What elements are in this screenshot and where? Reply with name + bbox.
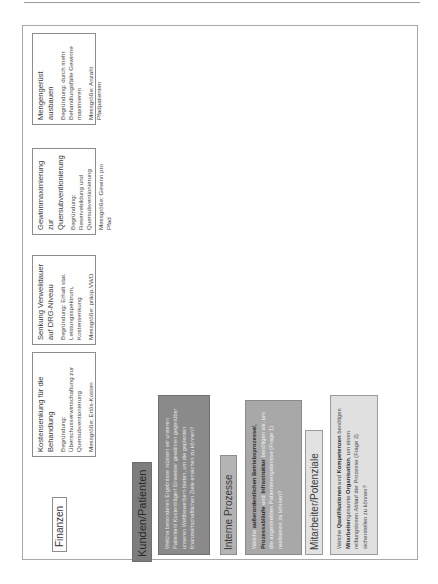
q-bold: Kompetenzen [336, 435, 342, 473]
card-title: Mengengerüst ausbauen [36, 38, 56, 120]
interne-question-box: Welche außerordentlichen Betriebsprozess… [245, 400, 302, 555]
mitarbeiter-question-box: Welche Qualifikationen und Kompetenzen b… [330, 395, 378, 555]
finanzen-label: Finanzen [52, 497, 67, 552]
q-text: und [260, 494, 266, 507]
kunden-label: Kunden/Patienten [132, 462, 152, 562]
finance-card-verweildauer: Senkung Verweildauer auf DRG-Niveau Begr… [32, 255, 96, 345]
finance-card-mengengeruest: Mengengerüst ausbauen Begründung: durch … [32, 33, 96, 125]
card-begruendung: Begründung: Überschusserwirtschaftung zu… [59, 357, 84, 452]
card-begruendung: Begründung: Erhalt stat. Leistungsspektr… [59, 260, 84, 340]
card-title: Gewinnmaximierung zur Quersubventionieru… [36, 153, 66, 230]
q-text: /gesamte [345, 494, 351, 519]
rotated-page: Finanzen Kostensenkung für die Behandlun… [0, 0, 438, 584]
card-messgroesse: Messgröße: präop.VWD [87, 260, 95, 340]
card-begruendung: Begründung: Reservebildung und Quersubve… [69, 153, 94, 230]
card-begruendung: Begründung: durch mehr Behandlungsfälle … [59, 38, 84, 120]
interne-prozesse-label: Interne Prozesse [220, 455, 237, 555]
card-title: Kostensenkung für die Behandlung [36, 357, 56, 452]
finance-card-kostensenkung: Kostensenkung für die Behandlung Begründ… [32, 352, 96, 457]
q-bold: Qualifikationen [336, 486, 342, 528]
finance-card-gewinnmaximierung: Gewinnmaximierung zur Quersubventionieru… [32, 148, 96, 235]
q-bold: Infrastruktur [260, 459, 266, 493]
q-text: Welche [336, 528, 342, 549]
card-messgroesse: Messgröße: Gewinn pro Pfad [97, 153, 114, 230]
q-text: und [336, 473, 342, 486]
q-text: benötigen [336, 408, 342, 435]
card-title: Senkung Verweildauer auf DRG-Niveau [36, 260, 56, 340]
q-bold: Mitarbeiter [345, 519, 351, 549]
card-messgroesse: Messgröße: Anzahl Pfadpatienten [87, 38, 104, 120]
q-text: Welche [251, 528, 257, 549]
kunden-question-box: Welche besonderen Ergebnisse müssen wir … [158, 395, 210, 555]
card-messgroesse: Messgröße: Erlös-Kosten [87, 357, 95, 452]
mitarbeiter-label: Mitarbeiter/Potenziale [305, 430, 323, 555]
q-bold: Organisation [345, 458, 351, 494]
